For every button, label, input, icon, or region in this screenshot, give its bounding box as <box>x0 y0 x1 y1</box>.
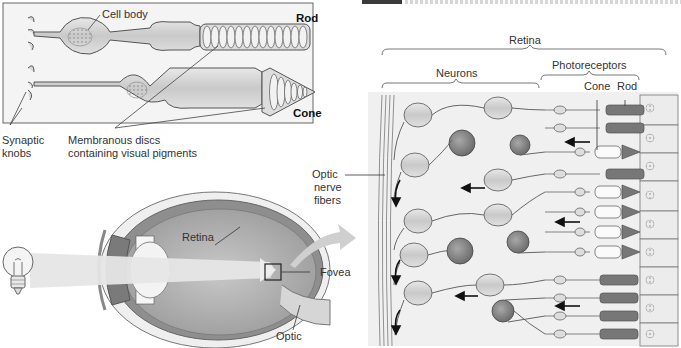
label-neurons: Neurons <box>436 67 478 80</box>
label-discs-2: containing visual pigments <box>68 147 197 160</box>
light-bulb-icon <box>3 247 33 294</box>
label-photoreceptors: Photoreceptors <box>552 59 627 72</box>
label-optic-nerve-3: fibers <box>314 194 341 207</box>
label-cone: Cone <box>293 107 322 120</box>
label-optic-nerve-2: nerve <box>314 181 342 194</box>
label-optic: Optic <box>276 330 302 343</box>
label-optic-nerve-1: Optic <box>312 168 338 181</box>
label-cell-body: Cell body <box>102 8 148 21</box>
photoreceptor-panel <box>3 3 315 128</box>
label-synaptic-knobs-1: Synaptic <box>2 134 44 147</box>
label-retina-rod: Rod <box>617 80 637 93</box>
label-retina-cone: Cone <box>584 80 610 93</box>
pigment-epithelium <box>640 95 678 346</box>
label-discs-1: Membranous discs <box>68 134 160 147</box>
label-fovea: Fovea <box>320 266 351 279</box>
diagram-canvas <box>0 0 681 348</box>
label-rod: Rod <box>296 12 318 25</box>
label-synaptic-knobs-2: knobs <box>2 147 31 160</box>
eye-illustration <box>30 192 356 348</box>
label-retina-brace: Retina <box>509 34 541 47</box>
label-eye-retina: Retina <box>182 231 214 244</box>
